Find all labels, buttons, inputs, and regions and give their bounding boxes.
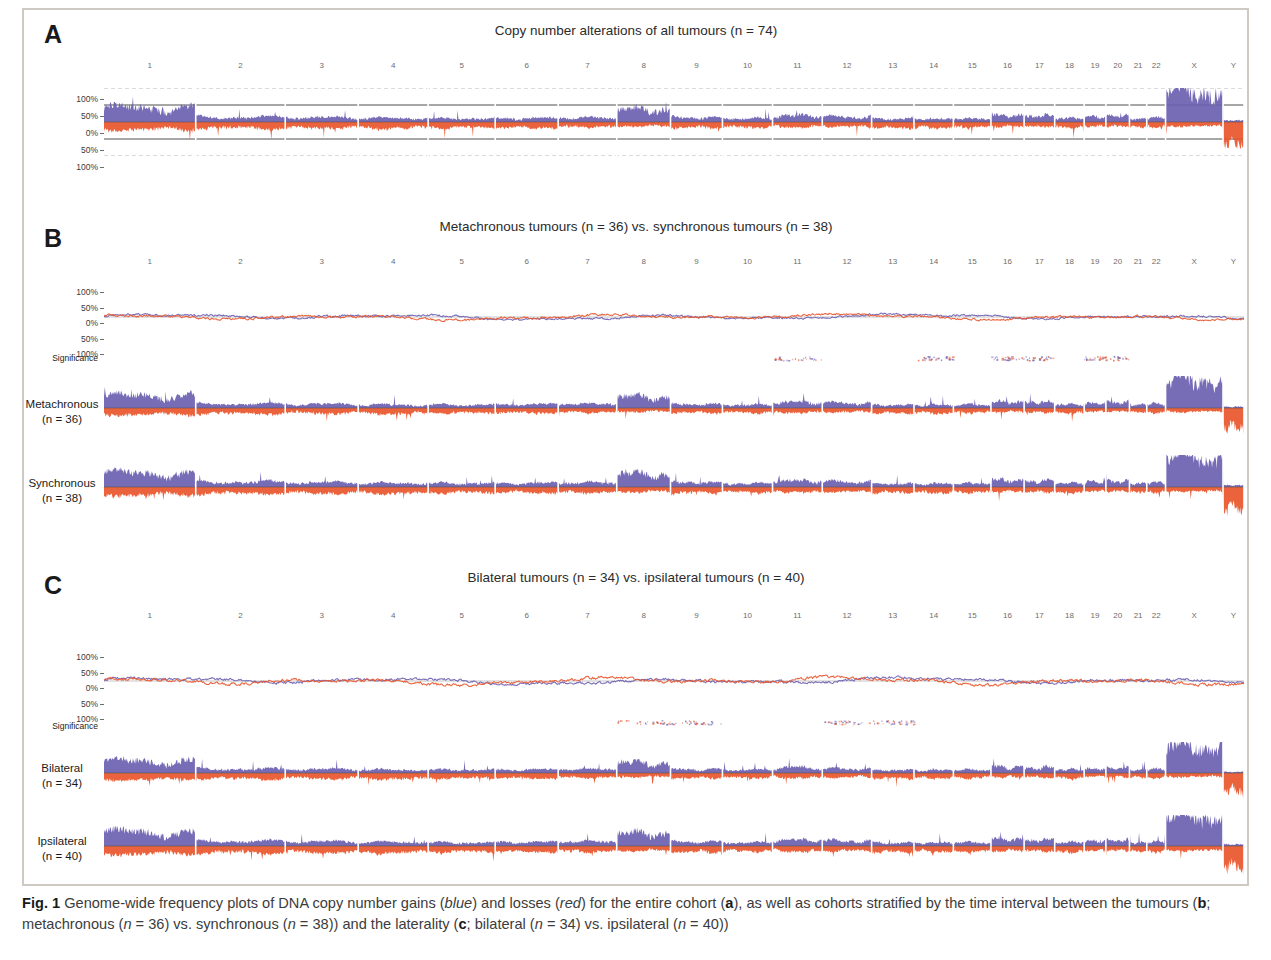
caption-ref-b: b <box>1197 895 1206 911</box>
caption-part-9: = 34) vs. ipsilateral ( <box>543 916 678 932</box>
chromosome-tick-Y: Y <box>1231 257 1236 266</box>
significance-mark <box>1048 356 1049 358</box>
plot-all-tumours <box>104 88 1244 156</box>
chromosome-tick-3: 3 <box>319 257 323 266</box>
caption-n-4: n <box>678 916 686 932</box>
chromosome-tick-1: 1 <box>148 257 152 266</box>
y-tick-label-4: 100% <box>28 162 98 172</box>
significance-mark <box>839 721 841 723</box>
significance-mark <box>660 723 661 725</box>
gain-area <box>104 742 1244 773</box>
chromosome-axis-b: 12345678910111213141516171819202122XY <box>0 257 1271 271</box>
significance-mark <box>922 359 923 361</box>
chromosome-tick-5: 5 <box>459 611 463 620</box>
significance-mark <box>809 358 811 360</box>
significance-mark <box>1086 358 1088 360</box>
chromosome-tick-X: X <box>1192 611 1197 620</box>
chromosome-tick-2: 2 <box>238 61 242 70</box>
significance-mark <box>802 360 804 362</box>
y-tick-label-2: 0% <box>28 683 98 693</box>
row-label-bilateral-n: (n = 34) <box>42 777 82 789</box>
significance-mark <box>1007 356 1009 358</box>
significance-mark <box>830 722 831 724</box>
significance-mark <box>780 359 782 361</box>
chromosome-tick-17: 17 <box>1035 611 1044 620</box>
significance-mark <box>1009 358 1011 360</box>
significance-label-c: Significance <box>28 721 98 731</box>
significance-mark <box>775 359 777 361</box>
caption-part-1: Genome-wide frequency plots of DNA copy … <box>60 895 445 911</box>
caption-part-4: ), as well as cohorts stratified by the … <box>733 895 1197 911</box>
significance-mark <box>640 724 641 726</box>
significance-mark <box>1041 356 1042 358</box>
chromosome-tick-12: 12 <box>842 61 851 70</box>
significance-mark <box>618 722 620 724</box>
significance-mark <box>883 723 884 725</box>
gain-area <box>104 815 1244 846</box>
significance-mark <box>622 720 623 722</box>
frequency-plot-canvas <box>104 376 1244 440</box>
significance-mark <box>645 722 646 724</box>
significance-mark <box>997 358 998 360</box>
chromosome-tick-4: 4 <box>391 611 395 620</box>
significance-mark <box>792 359 793 361</box>
y-tick-label-1: 50% <box>28 111 98 121</box>
significance-mark <box>1002 359 1004 361</box>
significance-mark <box>786 360 788 362</box>
difference-line-loss <box>104 675 1244 686</box>
significance-mark <box>941 360 942 362</box>
significance-mark <box>840 724 841 726</box>
significance-mark <box>1023 358 1025 360</box>
significance-mark <box>708 723 709 725</box>
panel-letter-b: B <box>44 226 62 251</box>
chromosome-tick-11: 11 <box>793 61 801 70</box>
significance-mark <box>1118 357 1120 359</box>
significance-mark <box>1046 357 1047 359</box>
y-tick-label-3: 50% <box>28 334 98 344</box>
significance-mark <box>666 724 668 726</box>
caption-part-8: ; bilateral ( <box>467 916 535 932</box>
significance-mark <box>687 722 688 724</box>
significance-mark <box>841 721 842 723</box>
significance-mark <box>811 358 813 360</box>
significance-mark <box>690 721 692 723</box>
chromosome-tick-16: 16 <box>1003 61 1012 70</box>
chromosome-tick-19: 19 <box>1091 61 1100 70</box>
plot-bilateral-vs-ipsilateral-difference <box>104 650 1244 730</box>
significance-mark <box>853 722 855 724</box>
chromosome-tick-9: 9 <box>694 611 698 620</box>
significance-mark <box>848 720 849 722</box>
chromosome-tick-22: 22 <box>1152 61 1161 70</box>
caption-part-6: = 36) vs. synchronous ( <box>132 916 288 932</box>
significance-mark <box>938 358 940 360</box>
significance-mark <box>1027 359 1029 361</box>
significance-mark <box>906 720 907 722</box>
significance-mark <box>620 720 621 722</box>
chromosome-tick-16: 16 <box>1003 611 1012 620</box>
chromosome-tick-9: 9 <box>694 257 698 266</box>
y-tick-label-2: 0% <box>28 318 98 328</box>
chromosome-tick-14: 14 <box>929 611 938 620</box>
panel-c-title: Bilateral tumours (n = 34) vs. ipsilater… <box>236 570 1036 585</box>
significance-mark <box>693 721 695 723</box>
chromosome-tick-18: 18 <box>1065 61 1074 70</box>
chromosome-tick-3: 3 <box>319 61 323 70</box>
significance-mark <box>1013 358 1014 360</box>
significance-mark <box>906 724 908 726</box>
chromosome-tick-12: 12 <box>842 257 851 266</box>
chromosome-tick-22: 22 <box>1152 611 1161 620</box>
significance-mark <box>929 356 931 358</box>
significance-mark <box>849 721 851 723</box>
significance-mark <box>626 720 628 722</box>
chromosome-tick-8: 8 <box>641 611 645 620</box>
frequency-plot-canvas <box>104 455 1244 519</box>
chromosome-tick-2: 2 <box>238 257 242 266</box>
significance-mark <box>1106 359 1108 361</box>
significance-mark <box>806 358 807 360</box>
row-label-synchronous-name: Synchronous <box>28 477 95 489</box>
chromosome-tick-15: 15 <box>968 61 977 70</box>
chromosome-tick-20: 20 <box>1113 61 1122 70</box>
significance-mark <box>1113 360 1115 362</box>
chromosome-tick-20: 20 <box>1113 257 1122 266</box>
significance-mark <box>788 360 790 362</box>
